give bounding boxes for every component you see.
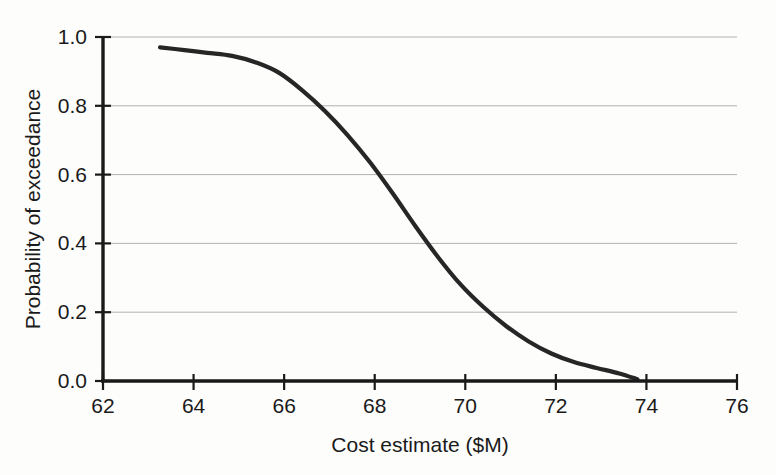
y-tick-label-0.0: 0.0 [58, 369, 87, 392]
chart-container: 0.00.20.40.60.81.0 6264666870727476 Cost… [0, 0, 776, 475]
y-tick-label-0.4: 0.4 [58, 231, 88, 254]
x-tick-label-72: 72 [544, 394, 567, 417]
x-tick-label-70: 70 [454, 394, 477, 417]
x-tick-label-68: 68 [363, 394, 386, 417]
x-tick-label-76: 76 [725, 394, 748, 417]
x-axis-title: Cost estimate ($M) [331, 433, 508, 456]
x-tick-label-74: 74 [635, 394, 659, 417]
exceedance-line-chart: 0.00.20.40.60.81.0 6264666870727476 Cost… [0, 0, 776, 475]
x-tick-label-66: 66 [272, 394, 295, 417]
y-tick-label-0.6: 0.6 [58, 163, 87, 186]
y-tick-label-1.0: 1.0 [58, 25, 87, 48]
x-tick-label-62: 62 [91, 394, 114, 417]
y-tick-label-0.8: 0.8 [58, 94, 87, 117]
y-tick-label-0.2: 0.2 [58, 300, 87, 323]
x-tick-label-64: 64 [182, 394, 206, 417]
chart-background [0, 0, 776, 475]
y-axis-title: Probability of exceedance [21, 89, 44, 330]
